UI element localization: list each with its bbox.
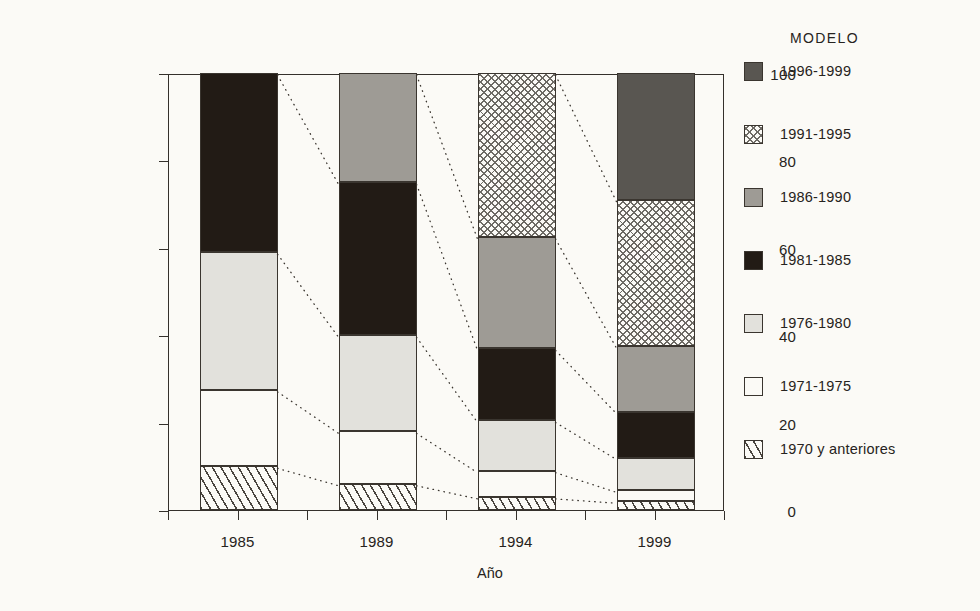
- bar-segment-1994-1971-1975: [478, 471, 556, 497]
- x-axis-tick-label-1985: 1985: [220, 533, 254, 550]
- bar-1994: [478, 73, 556, 510]
- connector-line: [417, 337, 478, 422]
- connector-line: [278, 468, 339, 485]
- bar-segment-1989-1976-1980: [339, 335, 417, 431]
- x-axis-tick: [724, 511, 725, 520]
- dark-gray-swatch: [744, 62, 763, 81]
- y-axis-tick: [159, 161, 168, 162]
- legend-item-1986-1990[interactable]: 1986-1990: [744, 186, 974, 208]
- bar-segment-1994-1986-1990: [478, 237, 556, 348]
- x-axis-tick: [446, 511, 447, 520]
- crosshatch-swatch: [744, 125, 763, 144]
- bar-segment-1999-1971-1975: [617, 490, 695, 501]
- legend-title: Modelo: [790, 30, 974, 46]
- chart-figure: Porcentaje del parque vehicular por cate…: [0, 0, 980, 611]
- plot-area: [168, 74, 724, 511]
- legend-item-label: 1996-1999: [780, 63, 851, 79]
- bar-segment-1994-1970-y-anteriores: [478, 497, 556, 510]
- y-axis-tick: [159, 249, 168, 250]
- legend-item-label: 1971-1975: [780, 378, 851, 394]
- legend-item-label: 1970 y anteriores: [780, 441, 895, 457]
- chart-legend: Modelo 1996-19991991-19951986-19901981-1…: [744, 30, 974, 501]
- bar-segment-1994-1981-1985: [478, 348, 556, 420]
- x-axis-tick: [655, 511, 656, 520]
- white-swatch: [744, 377, 763, 396]
- x-axis-tick-label-1999: 1999: [637, 533, 671, 550]
- connector-line: [556, 422, 617, 459]
- x-axis-tick: [585, 511, 586, 520]
- bar-segment-1985-1970-y-anteriores: [200, 466, 278, 510]
- bar-segment-1985-1976-1980: [200, 252, 278, 390]
- legend-item-1991-1995[interactable]: 1991-1995: [744, 123, 974, 145]
- bar-segment-1989-1970-y-anteriores: [339, 484, 417, 510]
- x-axis-tick-label-1989: 1989: [359, 533, 393, 550]
- connector-line: [556, 75, 617, 202]
- y-axis-title: Porcentaje del parque vehicular por cate…: [38, 0, 78, 104]
- connector-line: [417, 433, 478, 472]
- hatch-swatch: [744, 440, 763, 459]
- light-gray-swatch: [744, 314, 763, 333]
- bar-segment-1994-1976-1980: [478, 420, 556, 470]
- bar-segment-1985-1981-1985: [200, 73, 278, 252]
- bar-segment-1994-1991-1995: [478, 73, 556, 237]
- y-axis-tick: [159, 511, 168, 512]
- bar-segment-1999-1970-y-anteriores: [617, 501, 695, 510]
- legend-item-label: 1976-1980: [780, 315, 851, 331]
- x-axis-tick: [238, 511, 239, 520]
- bar-segment-1989-1986-1990: [339, 73, 417, 182]
- connector-line: [278, 75, 339, 184]
- x-axis-tick: [516, 511, 517, 520]
- y-axis-tick: [159, 424, 168, 425]
- bar-segment-1999-1991-1995: [617, 200, 695, 346]
- y-axis-tick: [159, 336, 168, 337]
- connector-line: [417, 486, 478, 499]
- legend-item-1981-1985[interactable]: 1981-1985: [744, 249, 974, 271]
- legend-item-label: 1981-1985: [780, 252, 851, 268]
- connector-line: [278, 392, 339, 434]
- connector-line: [556, 499, 617, 503]
- legend-item-1971-1975[interactable]: 1971-1975: [744, 375, 974, 397]
- x-axis-tick-label-1994: 1994: [498, 533, 532, 550]
- connector-line: [556, 473, 617, 493]
- bar-segment-1999-1976-1980: [617, 458, 695, 491]
- bar-segment-1985-1971-1975: [200, 390, 278, 466]
- bar-1999: [617, 73, 695, 510]
- x-axis-tick: [377, 511, 378, 520]
- connector-line: [556, 239, 617, 348]
- bar-segment-1989-1971-1975: [339, 431, 417, 483]
- legend-item-1976-1980[interactable]: 1976-1980: [744, 312, 974, 334]
- bar-segment-1989-1981-1985: [339, 182, 417, 335]
- bar-segment-1999-1981-1985: [617, 412, 695, 458]
- y-axis-tick: [159, 74, 168, 75]
- x-axis-tick: [307, 511, 308, 520]
- legend-item-label: 1991-1995: [780, 126, 851, 142]
- y-axis-tick-label: 0: [748, 503, 796, 520]
- black-swatch: [744, 251, 763, 270]
- bar-1985: [200, 73, 278, 510]
- connector-line: [278, 254, 339, 337]
- connector-line: [417, 75, 478, 239]
- bar-segment-1999-1996-1999: [617, 73, 695, 200]
- legend-item-1996-1999[interactable]: 1996-1999: [744, 60, 974, 82]
- legend-item-1970-y-anteriores[interactable]: 1970 y anteriores: [744, 438, 974, 460]
- mid-gray-swatch: [744, 188, 763, 207]
- bar-1989: [339, 73, 417, 510]
- bar-segment-1999-1986-1990: [617, 346, 695, 412]
- x-axis-tick: [168, 511, 169, 520]
- legend-item-list: 1996-19991991-19951986-19901981-19851976…: [744, 60, 974, 460]
- connector-line: [417, 184, 478, 350]
- x-axis-title: Año: [0, 565, 980, 581]
- legend-item-label: 1986-1990: [780, 189, 851, 205]
- connector-line: [556, 350, 617, 413]
